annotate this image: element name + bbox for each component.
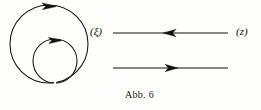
figure-container: (ξ) (z) Abb. 6 — [0, 0, 261, 110]
z-plane-label: (z) — [236, 25, 248, 37]
outer-circle-arrowhead — [42, 3, 56, 10]
figure-caption-text: Abb. 6 — [107, 89, 154, 100]
inner-circle — [33, 39, 77, 83]
tangency-point — [54, 82, 57, 85]
inner-circle-arrowhead — [49, 37, 62, 43]
figure-caption-row: Abb. 6 — [0, 89, 261, 100]
xi-plane-group — [10, 3, 88, 84]
outer-circle — [10, 5, 88, 83]
xi-plane-label: (ξ) — [90, 25, 102, 37]
z-plane-group — [113, 29, 228, 71]
